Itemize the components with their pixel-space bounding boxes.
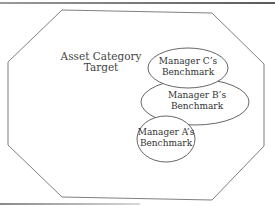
manager-b-line2: Benchmark — [157, 101, 237, 112]
manager-a-line2: Benchmark — [131, 138, 201, 149]
manager-a-line1: Manager A’s — [131, 127, 201, 138]
asset-category-target-label: Asset Category Target — [58, 51, 144, 73]
manager-c-label: Manager C’s Benchmark — [148, 56, 228, 78]
manager-b-label: Manager B’s Benchmark — [157, 90, 237, 112]
manager-a-label: Manager A’s Benchmark — [131, 127, 201, 149]
manager-c-line2: Benchmark — [148, 67, 228, 78]
manager-b-line1: Manager B’s — [157, 90, 237, 101]
target-label-line2: Target — [58, 62, 144, 73]
manager-c-line1: Manager C’s — [148, 56, 228, 67]
